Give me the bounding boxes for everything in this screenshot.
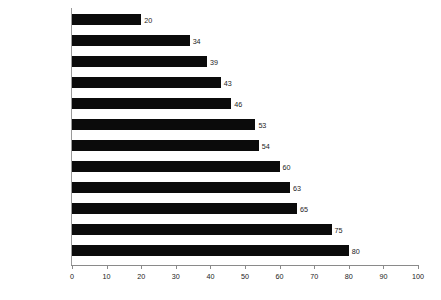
x-axis-tick — [210, 265, 211, 269]
bar-value-label: 75 — [335, 225, 343, 236]
x-axis-tick — [176, 265, 177, 269]
bar — [72, 161, 280, 172]
plot-area: Administration20Marketing34Manufacturing… — [0, 0, 441, 300]
x-axis-tick — [107, 265, 108, 269]
bar — [72, 14, 141, 25]
bar — [72, 140, 259, 151]
bar-value-label: 34 — [193, 36, 201, 47]
bar — [72, 182, 290, 193]
x-axis-tick — [383, 265, 384, 269]
x-axis-tick — [245, 265, 246, 269]
bar-value-label: 54 — [262, 141, 270, 152]
bar-value-label: 46 — [234, 99, 242, 110]
bar — [72, 56, 207, 67]
bar-value-label: 39 — [210, 57, 218, 68]
bar-value-label: 43 — [224, 78, 232, 89]
x-axis-tick — [314, 265, 315, 269]
bar — [72, 224, 332, 235]
x-axis-tick — [72, 265, 73, 269]
bar — [72, 35, 190, 46]
bar-value-label: 63 — [293, 183, 301, 194]
x-axis-tick — [349, 265, 350, 269]
bar-value-label: 20 — [144, 15, 152, 26]
x-axis-tick-label: 100 — [398, 272, 438, 282]
bar — [72, 119, 255, 130]
bar — [72, 203, 297, 214]
bar — [72, 77, 221, 88]
x-axis-tick — [418, 265, 419, 269]
bar — [72, 98, 231, 109]
bar-value-label: 80 — [352, 246, 360, 257]
bar-chart: Administration20Marketing34Manufacturing… — [0, 0, 441, 300]
bar-value-label: 60 — [283, 162, 291, 173]
bar-value-label: 53 — [258, 120, 266, 131]
bar-value-label: 65 — [300, 204, 308, 215]
bar — [72, 245, 349, 256]
x-axis-tick — [141, 265, 142, 269]
x-axis-tick — [280, 265, 281, 269]
